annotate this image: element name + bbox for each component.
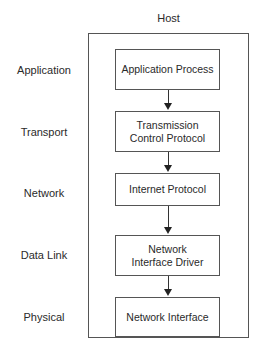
box-label: Network Interface — [126, 311, 208, 324]
layer-label-network: Network — [0, 187, 88, 199]
layer-label-physical: Physical — [0, 311, 88, 323]
layer-label-data-link: Data Link — [0, 249, 88, 261]
box-label: Network Interface Driver — [128, 243, 207, 269]
arrow-line — [168, 90, 169, 104]
arrow-down-icon — [164, 165, 172, 172]
box-network-interface: Network Interface — [115, 297, 220, 337]
box-label: Transmission Control Protocol — [122, 119, 213, 145]
arrow-line — [168, 276, 169, 290]
arrow-down-icon — [164, 103, 172, 110]
layer-label-application: Application — [0, 64, 88, 76]
box-application-process: Application Process — [115, 49, 220, 90]
box-transmission-control-protocol: Transmission Control Protocol — [115, 111, 220, 152]
box-label: Application Process — [121, 63, 213, 76]
box-network-interface-driver: Network Interface Driver — [115, 235, 220, 276]
arrow-line — [168, 206, 169, 228]
arrow-down-icon — [164, 289, 172, 296]
box-internet-protocol: Internet Protocol — [115, 173, 220, 206]
layer-label-transport: Transport — [0, 126, 88, 138]
box-label: Internet Protocol — [129, 183, 206, 196]
host-title: Host — [88, 12, 249, 24]
arrow-down-icon — [164, 227, 172, 234]
arrow-line — [168, 152, 169, 166]
